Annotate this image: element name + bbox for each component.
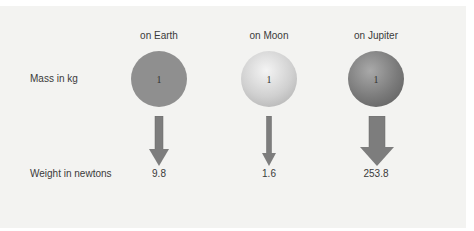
earth-mass-value: 1 [157, 74, 162, 85]
jupiter-weight-value: 253.8 [363, 168, 388, 179]
earth-sphere: 1 [131, 51, 187, 107]
earth-weight-arrow-icon [148, 116, 170, 166]
jupiter-sphere: 1 [348, 51, 404, 107]
moon-weight-value: 1.6 [262, 168, 276, 179]
column-header-earth: on Earth [140, 30, 178, 41]
row-label-mass: Mass in kg [30, 73, 78, 84]
jupiter-mass-value: 1 [374, 74, 379, 85]
column-header-moon: on Moon [250, 30, 289, 41]
moon-mass-value: 1 [267, 74, 272, 85]
column-header-jupiter: on Jupiter [354, 30, 398, 41]
jupiter-weight-arrow-icon [360, 116, 394, 166]
row-label-weight: Weight in newtons [30, 168, 112, 179]
earth-weight-value: 9.8 [152, 168, 166, 179]
moon-sphere: 1 [241, 51, 297, 107]
moon-weight-arrow-icon [262, 116, 276, 166]
